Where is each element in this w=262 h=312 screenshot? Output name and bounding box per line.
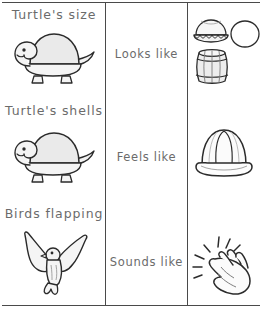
table-bottom-border	[2, 305, 260, 306]
sense-label-sounds-like: Sounds like	[106, 255, 187, 269]
sense-column: Looks like Feels like Sounds like	[106, 3, 187, 305]
subject-label-turtle-size: Turtle's size	[3, 7, 105, 22]
image-cell-row-3	[188, 231, 260, 303]
worksheet-table: Turtle's size	[0, 0, 262, 312]
sense-label-feels-like: Feels like	[106, 150, 187, 164]
subject-column: Turtle's size	[3, 3, 105, 305]
hard-hat-icon	[188, 121, 260, 187]
image-column	[188, 3, 260, 305]
subject-label-turtle-shells: Turtle's shells	[3, 103, 105, 118]
bird-icon	[3, 227, 105, 297]
subject-label-birds-flapping: Birds flapping	[3, 206, 105, 221]
image-cell-row-1	[188, 15, 260, 103]
turtle-icon	[3, 127, 105, 185]
subject-cell-row-2: Turtle's shells	[3, 103, 105, 203]
sense-cell-row-2: Feels like	[106, 150, 187, 164]
subject-cell-row-3: Birds flapping	[3, 206, 105, 305]
turtle-icon	[3, 30, 105, 86]
circle-icon	[231, 21, 259, 47]
clapping-hands-icon	[188, 231, 260, 301]
pie-icon	[194, 20, 228, 42]
image-cell-row-2	[188, 121, 260, 191]
sense-label-looks-like: Looks like	[106, 47, 187, 61]
sense-cell-row-3: Sounds like	[106, 255, 187, 269]
looks-like-objects-group	[188, 15, 260, 103]
barrel-icon	[196, 50, 228, 84]
subject-cell-row-1: Turtle's size	[3, 7, 105, 103]
sense-cell-row-1: Looks like	[106, 47, 187, 61]
